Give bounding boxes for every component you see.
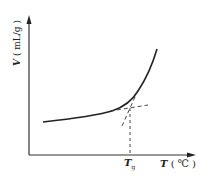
high-temp-tangent	[122, 88, 139, 126]
y-axis-var: V	[12, 59, 22, 66]
volume-curve	[43, 49, 157, 122]
x-axis-label: T ( ℃ )	[160, 158, 196, 169]
x-axis-unit: ( ℃ )	[171, 158, 196, 169]
x-axis-arrow-icon	[187, 153, 196, 158]
y-axis-arrow-icon	[27, 15, 32, 24]
plot-area	[0, 0, 211, 181]
tg-label: Tg	[124, 157, 135, 170]
y-axis-unit: ( mL/g )	[12, 20, 22, 56]
tg-diagram: V ( mL/g ) Tg T ( ℃ )	[0, 0, 211, 181]
tg-label-sub: g	[131, 163, 135, 170]
x-axis-var: T	[160, 158, 167, 169]
y-axis-label: V ( mL/g )	[12, 18, 22, 68]
